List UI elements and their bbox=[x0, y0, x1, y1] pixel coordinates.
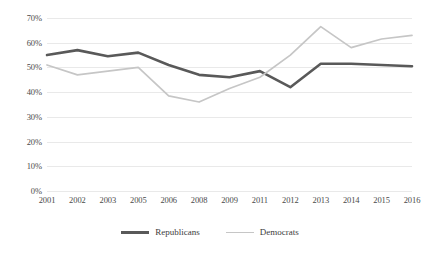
series-lines bbox=[47, 18, 412, 191]
y-axis-tick-label: 60% bbox=[2, 39, 42, 48]
y-axis-tick-label: 30% bbox=[2, 113, 42, 122]
series-line-republicans bbox=[47, 50, 412, 87]
y-axis-tick-label: 10% bbox=[2, 162, 42, 171]
x-axis-tick-label: 2009 bbox=[213, 196, 247, 205]
x-axis-tick-label: 2002 bbox=[60, 196, 94, 205]
x-axis-tick-label: 2001 bbox=[30, 196, 64, 205]
legend-item-democrats[interactable]: Democrats bbox=[226, 228, 299, 237]
x-axis-tick-label: 2006 bbox=[152, 196, 186, 205]
x-axis-tick-label: 2013 bbox=[304, 196, 338, 205]
y-axis-tick-label: 40% bbox=[2, 88, 42, 97]
plot-area bbox=[47, 18, 412, 191]
x-axis-tick-label: 2011 bbox=[243, 196, 277, 205]
y-axis-tick-label: 20% bbox=[2, 138, 42, 147]
x-axis-tick-label: 2003 bbox=[91, 196, 125, 205]
x-axis-tick-label: 2016 bbox=[395, 196, 425, 205]
chart-legend: RepublicansDemocrats bbox=[0, 228, 420, 237]
x-axis: 2001200220032005200620082009201120122013… bbox=[47, 196, 412, 214]
y-axis-tick-label: 0% bbox=[2, 187, 42, 196]
x-axis-tick-label: 2005 bbox=[121, 196, 155, 205]
legend-item-label: Republicans bbox=[155, 228, 200, 237]
legend-line-swatch-icon bbox=[121, 231, 149, 234]
y-axis: 0%10%20%30%40%50%60%70% bbox=[0, 0, 47, 200]
gridline bbox=[47, 191, 412, 192]
y-axis-tick-label: 50% bbox=[2, 63, 42, 72]
x-axis-tick-label: 2012 bbox=[273, 196, 307, 205]
legend-item-label: Democrats bbox=[260, 228, 299, 237]
legend-line-swatch-icon bbox=[226, 232, 254, 234]
x-axis-tick-label: 2015 bbox=[365, 196, 399, 205]
legend-item-republicans[interactable]: Republicans bbox=[121, 228, 200, 237]
x-axis-tick-label: 2008 bbox=[182, 196, 216, 205]
y-axis-tick-label: 70% bbox=[2, 14, 42, 23]
x-axis-tick-label: 2014 bbox=[334, 196, 368, 205]
